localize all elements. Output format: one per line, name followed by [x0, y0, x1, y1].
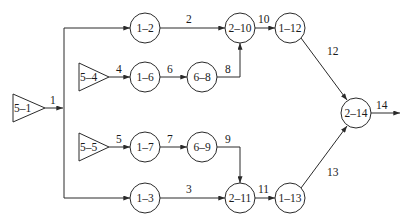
edge-9: [217, 147, 240, 183]
node-5-5: 5–5: [79, 133, 109, 161]
source-nodes: 5–1 5–4 5–5: [13, 63, 109, 161]
node-label: 1–6: [136, 71, 154, 83]
edge-labels: 1 2 3 4 5 6 7 8 9 10 11 12 13 14: [50, 13, 388, 195]
node-1-3: 1–3: [130, 183, 160, 213]
edge-label-10: 10: [258, 13, 270, 25]
edge-label-8: 8: [225, 63, 231, 75]
node-label: 1–7: [136, 141, 154, 153]
node-2-10: 2–10: [225, 13, 255, 43]
node-1-2: 1–2: [130, 13, 160, 43]
edge-label-14: 14: [376, 99, 388, 111]
node-5-1: 5–1: [13, 94, 45, 122]
edge-label-7: 7: [167, 133, 173, 145]
node-1-13: 1–13: [275, 183, 305, 213]
node-label: 5–4: [80, 71, 98, 83]
node-label: 1–12: [279, 22, 302, 34]
node-6-9: 6–9: [187, 132, 217, 162]
node-label: 2–14: [345, 107, 368, 119]
edge-label-12: 12: [327, 45, 339, 57]
edge-12: [301, 38, 347, 100]
node-6-8: 6–8: [187, 62, 217, 92]
node-2-14: 2–14: [341, 98, 371, 128]
node-label: 5–5: [80, 141, 98, 153]
node-1-7: 1–7: [130, 132, 160, 162]
edge-label-1: 1: [50, 94, 56, 106]
edge-label-4: 4: [116, 63, 122, 75]
edge-label-11: 11: [258, 183, 269, 195]
process-nodes: 1–2 1–3 1–6 1–7 6–8 6–9 2–10 2–11: [130, 13, 371, 213]
edge-label-13: 13: [327, 166, 339, 178]
node-label: 1–2: [136, 22, 154, 34]
node-1-6: 1–6: [130, 62, 160, 92]
node-1-12: 1–12: [275, 13, 305, 43]
node-2-11: 2–11: [225, 183, 255, 213]
node-label: 6–8: [193, 71, 211, 83]
node-label: 1–3: [136, 192, 154, 204]
edge-label-3: 3: [186, 183, 192, 195]
node-label: 6–9: [193, 141, 211, 153]
node-label: 2–11: [229, 192, 252, 204]
edge-label-5: 5: [116, 133, 122, 145]
edge-13: [301, 126, 347, 188]
edge-label-9: 9: [225, 133, 231, 145]
node-label: 1–13: [279, 192, 302, 204]
node-label: 2–10: [229, 22, 252, 34]
node-label: 5–1: [14, 102, 32, 114]
flow-diagram: 1 2 3 4 5 6 7 8 9 10 11 12 13 14 5–1 5–4…: [0, 0, 409, 222]
node-5-4: 5–4: [79, 63, 109, 91]
edge-label-6: 6: [167, 63, 173, 75]
edge-label-2: 2: [186, 13, 192, 25]
